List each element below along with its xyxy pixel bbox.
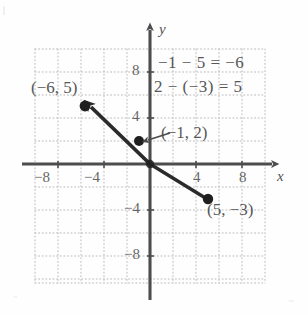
point-marker-a: [80, 101, 91, 112]
origin-marker: [146, 160, 154, 168]
scan-artifact: [14, 296, 17, 298]
annotation-calc-x-component: −1 − 5 = −6: [158, 54, 244, 71]
y-axis-label: y: [159, 22, 166, 37]
y-tick-label-neg8: −8: [124, 247, 140, 262]
annotation-point-a-label: (−6, 5): [31, 79, 77, 96]
x-tick-label-pos8: 8: [239, 170, 247, 185]
plot-canvas: [0, 0, 308, 317]
scan-artifact: [289, 300, 294, 302]
coordinate-plane-figure: −8 −4 4 8 8 4 −4 −8 x y (−6, 5) −1 − 5 =…: [0, 0, 308, 317]
y-tick-label-neg4: −4: [124, 201, 140, 216]
y-tick-label-pos4: 4: [132, 109, 140, 124]
y-tick-label-pos8: 8: [132, 63, 140, 78]
point-marker-b: [134, 136, 144, 146]
vector-to-point-a: [91, 107, 150, 164]
x-axis-label: x: [277, 169, 284, 184]
annotation-point-c-label: (5, −3): [207, 201, 253, 218]
x-tick-label-pos4: 4: [193, 170, 201, 185]
annotation-calc-y-component: 2 − (−3) = 5: [154, 78, 243, 95]
x-tick-label-neg8: −8: [34, 170, 50, 185]
x-tick-label-neg4: −4: [84, 170, 100, 185]
annotation-point-b-label: (−1, 2): [161, 124, 207, 141]
scan-artifact: [3, 6, 5, 15]
